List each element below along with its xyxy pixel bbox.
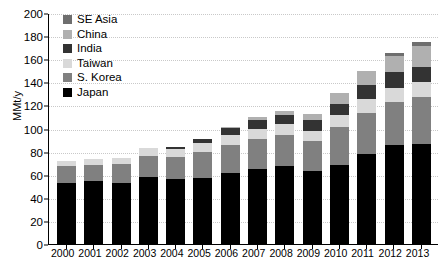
legend-swatch-icon — [63, 59, 72, 68]
y-tick-label: 40 — [6, 193, 48, 205]
bar-column[interactable] — [193, 14, 212, 245]
bar-segment-japan[interactable] — [84, 181, 103, 245]
bar-segment-china[interactable] — [385, 56, 404, 73]
bar-segment-japan[interactable] — [248, 169, 267, 245]
bar-segment-japan[interactable] — [221, 173, 240, 245]
bar-segment-japan[interactable] — [57, 183, 76, 245]
bar-segment-s-korea[interactable] — [357, 113, 376, 154]
bar-segment-china[interactable] — [330, 93, 349, 104]
bar-segment-s-korea[interactable] — [84, 165, 103, 181]
legend-label: SE Asia — [77, 13, 117, 26]
bar-column[interactable] — [221, 14, 240, 245]
y-tick-label: 0 — [6, 239, 48, 251]
legend-item-s-korea[interactable]: S. Korea — [63, 71, 122, 84]
bar-segment-taiwan[interactable] — [412, 82, 431, 97]
bar-segment-india[interactable] — [330, 104, 349, 114]
bar-segment-india[interactable] — [275, 115, 294, 124]
y-tick-label: 100 — [6, 124, 48, 136]
legend-label: Taiwan — [77, 57, 113, 70]
bar-column[interactable] — [412, 14, 431, 245]
bar-segment-s-korea[interactable] — [193, 152, 212, 178]
bar-segment-s-korea[interactable] — [166, 157, 185, 180]
x-tick-label: 2010 — [324, 247, 343, 259]
bar-column[interactable] — [166, 14, 185, 245]
bar-segment-s-korea[interactable] — [139, 156, 158, 178]
bar-column[interactable] — [139, 14, 158, 245]
y-tick-label: 120 — [6, 100, 48, 112]
bar-segment-s-korea[interactable] — [275, 135, 294, 166]
bar-segment-s-korea[interactable] — [221, 145, 240, 173]
bar-segment-taiwan[interactable] — [221, 135, 240, 145]
bar-segment-japan[interactable] — [112, 183, 131, 245]
bar-segment-s-korea[interactable] — [412, 97, 431, 144]
x-tick-label: 2007 — [242, 247, 261, 259]
legend-swatch-icon — [63, 88, 72, 97]
x-tick-label: 2001 — [78, 247, 97, 259]
bar-segment-taiwan[interactable] — [330, 115, 349, 128]
bar-segment-taiwan[interactable] — [385, 88, 404, 102]
bar-segment-china[interactable] — [357, 71, 376, 85]
bar-segment-india[interactable] — [357, 85, 376, 99]
legend-item-taiwan[interactable]: Taiwan — [63, 57, 122, 70]
y-tick-label: 80 — [6, 147, 48, 159]
bar-segment-india[interactable] — [248, 120, 267, 129]
bar-segment-japan[interactable] — [412, 144, 431, 245]
bar-segment-taiwan[interactable] — [248, 129, 267, 139]
y-tick-label: 200 — [6, 8, 48, 20]
bar-segment-china[interactable] — [412, 46, 431, 67]
chart-legend: SE AsiaChinaIndiaTaiwanS. KoreaJapan — [63, 13, 122, 99]
bar-segment-japan[interactable] — [139, 177, 158, 245]
bar-segment-taiwan[interactable] — [166, 149, 185, 157]
bar-segment-india[interactable] — [412, 67, 431, 82]
y-tick-label: 140 — [6, 77, 48, 89]
y-tick-label: 180 — [6, 31, 48, 43]
legend-swatch-icon — [63, 73, 72, 82]
x-tick-label: 2013 — [406, 247, 425, 259]
bar-segment-india[interactable] — [303, 120, 322, 131]
bar-segment-s-korea[interactable] — [248, 139, 267, 168]
bar-segment-s-korea[interactable] — [57, 166, 76, 182]
bar-segment-japan[interactable] — [357, 154, 376, 245]
legend-item-india[interactable]: India — [63, 42, 122, 55]
legend-label: Japan — [77, 86, 108, 99]
bar-column[interactable] — [330, 14, 349, 245]
bar-column[interactable] — [303, 14, 322, 245]
x-tick-label: 2008 — [269, 247, 288, 259]
bar-segment-japan[interactable] — [385, 145, 404, 245]
bar-segment-taiwan[interactable] — [357, 99, 376, 113]
bar-segment-s-korea[interactable] — [385, 102, 404, 144]
bar-segment-taiwan[interactable] — [275, 124, 294, 134]
bar-segment-s-korea[interactable] — [112, 164, 131, 182]
legend-item-japan[interactable]: Japan — [63, 86, 122, 99]
x-tick-label: 2000 — [51, 247, 70, 259]
bar-segment-s-korea[interactable] — [330, 127, 349, 165]
y-tick-label: 20 — [6, 216, 48, 228]
bar-column[interactable] — [248, 14, 267, 245]
bar-segment-taiwan[interactable] — [139, 148, 158, 156]
bar-segment-s-korea[interactable] — [303, 141, 322, 170]
bar-column[interactable] — [275, 14, 294, 245]
legend-swatch-icon — [63, 44, 72, 53]
bar-segment-india[interactable] — [385, 72, 404, 88]
x-tick-label: 2004 — [160, 247, 179, 259]
legend-label: India — [77, 42, 102, 55]
bar-column[interactable] — [357, 14, 376, 245]
bar-segment-taiwan[interactable] — [303, 131, 322, 141]
legend-item-china[interactable]: China — [63, 28, 122, 41]
legend-item-se-asia[interactable]: SE Asia — [63, 13, 122, 26]
bar-segment-japan[interactable] — [303, 171, 322, 245]
bar-segment-india[interactable] — [221, 128, 240, 136]
legend-label: S. Korea — [77, 71, 122, 84]
bar-column[interactable] — [385, 14, 404, 245]
bar-segment-japan[interactable] — [193, 178, 212, 245]
x-axis-ticks: 2000200120022003200420052006200720082009… — [48, 247, 438, 259]
x-tick-label: 2002 — [106, 247, 125, 259]
bar-segment-taiwan[interactable] — [193, 143, 212, 152]
bar-segment-japan[interactable] — [330, 165, 349, 245]
stacked-bar-chart: MMt/y 200180160140120100806040200 200020… — [0, 0, 443, 276]
legend-swatch-icon — [63, 30, 72, 39]
x-tick-label: 2005 — [187, 247, 206, 259]
bar-segment-japan[interactable] — [275, 166, 294, 245]
x-tick-label: 2006 — [215, 247, 234, 259]
bar-segment-japan[interactable] — [166, 179, 185, 245]
